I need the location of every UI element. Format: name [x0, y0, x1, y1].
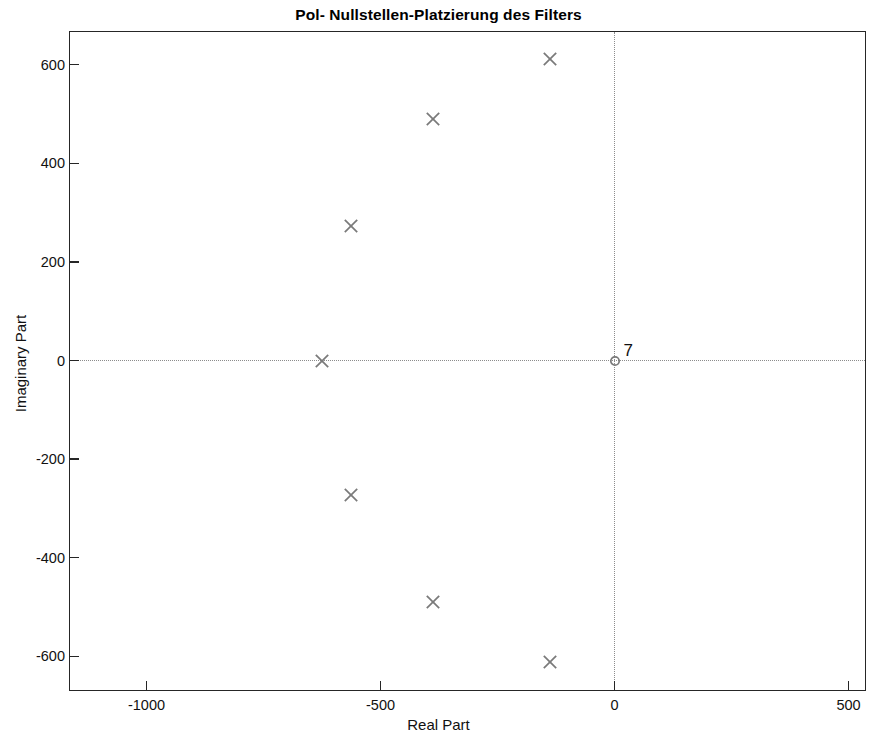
y-tick: [70, 656, 79, 657]
y-tick: [70, 360, 79, 361]
y-tick: [70, 458, 79, 459]
x-tick-label: -1000: [128, 697, 165, 713]
pole-marker: [314, 353, 329, 368]
pole-marker: [343, 487, 358, 502]
pole-marker: [543, 52, 558, 67]
pole-marker: [426, 595, 441, 610]
x-tick: [146, 681, 147, 690]
pole-marker: [343, 219, 358, 234]
y-tick-label: 200: [41, 254, 65, 270]
pole-zero-plot-figure: Pol- Nullstellen-Platzierung des Filters…: [0, 0, 877, 737]
y-tick-label: -200: [36, 451, 65, 467]
plot-area: [69, 31, 866, 691]
x-tick-label: -500: [366, 697, 395, 713]
x-tick-label: 500: [836, 697, 860, 713]
x-axis-title: Real Part: [0, 716, 877, 733]
y-axis-title: Imaginary Part: [12, 294, 29, 434]
pole-marker: [543, 654, 558, 669]
y-tick-label: -400: [36, 550, 65, 566]
chart-title: Pol- Nullstellen-Platzierung des Filters: [0, 6, 877, 24]
zero-marker: [608, 354, 621, 367]
y-tick: [70, 261, 79, 262]
y-tick-label: 0: [57, 353, 65, 369]
y-tick-label: -600: [36, 648, 65, 664]
x-tick-label: 0: [610, 697, 618, 713]
y-tick: [70, 163, 79, 164]
pole-marker: [426, 111, 441, 126]
y-tick-label: 400: [41, 155, 65, 171]
x-tick: [380, 681, 381, 690]
x-tick: [848, 681, 849, 690]
zero-multiplicity-label: 7: [624, 341, 633, 361]
x-tick: [614, 681, 615, 690]
y-tick: [70, 64, 79, 65]
horizontal-zero-axis-line: [70, 360, 865, 361]
y-tick-label: 600: [41, 57, 65, 73]
y-tick: [70, 557, 79, 558]
